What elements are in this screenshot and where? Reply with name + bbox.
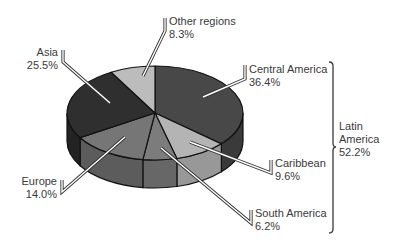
label-latin-america-pct: 52.2% (339, 146, 379, 159)
label-caribbean-name: Caribbean (275, 157, 326, 170)
label-latin-america: Latin America 52.2% (339, 120, 379, 159)
label-south-america-pct: 6.2% (255, 220, 327, 233)
label-asia-pct: 25.5% (27, 59, 58, 72)
label-latin-america-line2: America (339, 133, 379, 146)
label-caribbean: Caribbean 9.6% (275, 157, 326, 183)
label-other-regions-name: Other regions (169, 15, 236, 28)
label-europe-pct: 14.0% (22, 188, 57, 201)
label-central-america-name: Central America (249, 63, 327, 76)
latin-america-bracket (329, 62, 336, 233)
label-europe: Europe 14.0% (22, 175, 57, 201)
label-south-america: South America 6.2% (255, 207, 327, 233)
label-asia-name: Asia (27, 46, 58, 59)
label-other-regions-pct: 8.3% (169, 28, 236, 41)
label-europe-name: Europe (22, 175, 57, 188)
label-asia: Asia 25.5% (27, 46, 58, 72)
label-south-america-name: South America (255, 207, 327, 220)
label-caribbean-pct: 9.6% (275, 170, 326, 183)
label-central-america: Central America 36.4% (249, 63, 327, 89)
pie-slices (67, 66, 243, 160)
label-latin-america-line1: Latin (339, 120, 379, 133)
pie-side-south-america (143, 159, 177, 188)
label-central-america-pct: 36.4% (249, 76, 327, 89)
label-other-regions: Other regions 8.3% (169, 15, 236, 41)
